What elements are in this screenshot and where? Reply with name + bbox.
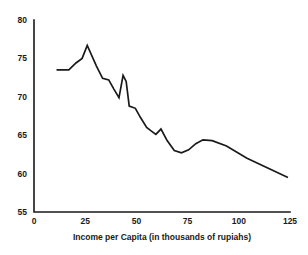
x-tick-125: 125 bbox=[283, 216, 297, 226]
data-series-line bbox=[57, 45, 288, 177]
y-tick-65: 65 bbox=[18, 130, 28, 140]
x-tick-75: 75 bbox=[183, 216, 193, 226]
y-tick-70: 70 bbox=[18, 92, 28, 102]
x-tick-50: 50 bbox=[132, 216, 142, 226]
y-axis-tick-labels: 556065707580 bbox=[18, 15, 28, 217]
y-tick-60: 60 bbox=[18, 169, 28, 179]
x-tick-100: 100 bbox=[232, 216, 246, 226]
x-tick-0: 0 bbox=[32, 216, 37, 226]
x-axis-tick-labels: 0255075100125 bbox=[32, 216, 298, 226]
x-tick-25: 25 bbox=[80, 216, 90, 226]
y-tick-80: 80 bbox=[18, 15, 28, 25]
y-tick-75: 75 bbox=[18, 53, 28, 63]
axis-lines bbox=[34, 20, 290, 212]
x-axis-title: Income per Capita (in thousands of rupia… bbox=[73, 232, 251, 242]
chart-container: 556065707580 0255075100125 Income per Ca… bbox=[0, 0, 308, 255]
line-chart: 556065707580 0255075100125 Income per Ca… bbox=[0, 0, 308, 255]
y-tick-55: 55 bbox=[18, 207, 28, 217]
